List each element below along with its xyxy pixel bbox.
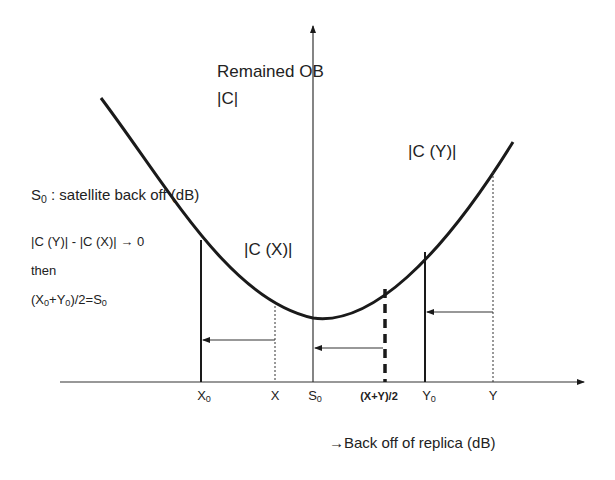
tick-x: X <box>271 388 280 403</box>
tick-mid: (X+Y)/2 <box>360 390 398 402</box>
label-cy: |C (Y)| <box>408 142 457 162</box>
note-result: (X0+Y0)/2=S0 <box>31 292 107 308</box>
c-curve <box>101 98 513 319</box>
note-then: then <box>31 263 56 278</box>
tick-y0: Y0 <box>422 388 436 404</box>
tick-s0: S0 <box>308 388 322 404</box>
y-axis-sublabel: |C| <box>217 89 238 109</box>
tick-y: Y <box>489 388 498 403</box>
note-s0-definition: S0 : satellite back off (dB) <box>31 186 199 205</box>
x-axis-title: →Back off of replica (dB) <box>329 434 495 451</box>
tick-x0: X0 <box>197 388 211 404</box>
note-condition: |C (Y)| - |C (X)| → 0 <box>31 234 144 249</box>
y-axis-title: Remained OB <box>217 62 324 82</box>
label-cx: |C (X)| <box>244 240 293 260</box>
